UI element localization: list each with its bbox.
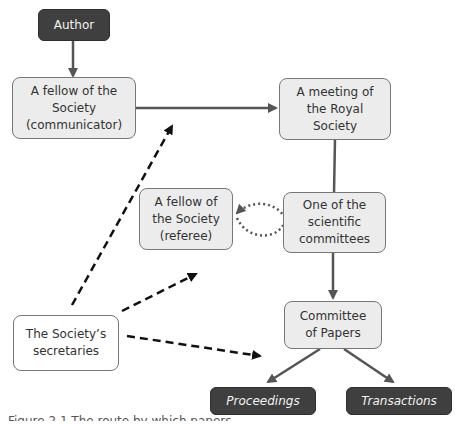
node-transactions-label: Transactions	[361, 393, 437, 410]
node-committees-line-1: One of the	[299, 197, 370, 214]
node-papers-line-1: Committee	[300, 308, 367, 325]
node-meeting-line-1: A meeting of	[296, 84, 373, 101]
node-transactions: Transactions	[346, 387, 452, 415]
node-committees-line-3: committees	[299, 231, 370, 248]
edge-committees-referee-dotted	[237, 204, 285, 218]
node-committee-of-papers: Committee of Papers	[284, 301, 382, 349]
node-communicator-line-3: (communicator)	[26, 117, 122, 134]
node-secretaries-line-1: The Society’s	[26, 326, 106, 343]
edge-meeting-committees	[334, 139, 335, 193]
edge-secretaries-referee	[122, 274, 196, 311]
edge-referee-committees-dotted	[237, 218, 283, 235]
node-meeting-line-3: Society	[296, 118, 373, 135]
node-author-label: Author	[54, 17, 94, 34]
node-communicator: A fellow of the Society (communicator)	[12, 77, 136, 139]
node-committees-line-2: scientific	[299, 214, 370, 231]
edge-papers-proceedings	[268, 349, 320, 382]
edge-papers-transactions	[344, 349, 393, 382]
edge-secretaries-papers	[127, 336, 260, 356]
node-communicator-line-1: A fellow of the	[26, 83, 122, 100]
node-author: Author	[38, 9, 110, 41]
node-secretaries-line-2: secretaries	[26, 343, 106, 360]
node-secretaries: The Society’s secretaries	[13, 315, 119, 371]
node-meeting: A meeting of the Royal Society	[279, 78, 391, 140]
node-proceedings-label: Proceedings	[226, 393, 299, 410]
node-communicator-line-2: Society	[26, 100, 122, 117]
node-papers-line-2: of Papers	[300, 325, 367, 342]
node-referee-line-1: A fellow of	[152, 194, 220, 211]
node-referee-line-3: (referee)	[152, 228, 220, 245]
node-meeting-line-2: the Royal	[296, 101, 373, 118]
node-committees: One of the scientific committees	[283, 192, 386, 253]
node-proceedings: Proceedings	[210, 387, 316, 415]
node-referee: A fellow of the Society (referee)	[139, 188, 233, 250]
node-referee-line-2: the Society	[152, 211, 220, 228]
